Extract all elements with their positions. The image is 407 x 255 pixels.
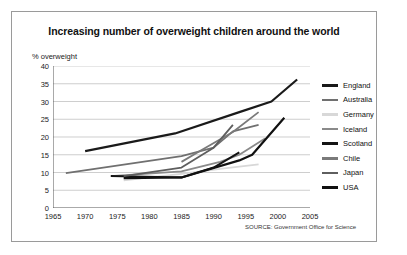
legend-swatch-icon: [322, 157, 338, 160]
y-tick-label: 5: [45, 186, 49, 195]
legend-swatch-icon: [322, 99, 338, 102]
chart-figure: Increasing number of overweight children…: [11, 11, 377, 242]
legend-swatch-icon: [322, 186, 338, 189]
legend-item-chile[interactable]: Chile: [322, 151, 386, 166]
x-tick-label: 2005: [302, 212, 319, 221]
legend-item-label: Japan: [343, 168, 363, 177]
source-note: SOURCE: Government Office for Science: [12, 224, 356, 230]
plot-area: 0510152025303540 19651970197519801985199…: [53, 66, 310, 208]
x-tick-label: 1965: [45, 212, 62, 221]
x-tick-label: 1985: [173, 212, 190, 221]
chart-legend: EnglandAustraliaGermanyIcelandScotlandCh…: [322, 78, 386, 195]
x-tick-label: 1995: [237, 212, 254, 221]
legend-item-label: Iceland: [343, 125, 367, 134]
legend-item-australia[interactable]: Australia: [322, 93, 386, 108]
legend-swatch-icon: [322, 84, 338, 87]
plot-svg: [53, 66, 310, 208]
legend-item-label: Chile: [343, 154, 360, 163]
legend-item-label: Australia: [343, 95, 372, 104]
legend-item-scotland[interactable]: Scotland: [322, 136, 386, 151]
series-lines: [66, 79, 297, 180]
y-tick-label: 10: [41, 168, 49, 177]
x-tick-label: 1970: [77, 212, 94, 221]
y-tick-label: 20: [41, 133, 49, 142]
y-tick-label: 15: [41, 150, 49, 159]
legend-swatch-icon: [322, 142, 338, 145]
legend-swatch-icon: [322, 113, 338, 116]
legend-item-label: Scotland: [343, 139, 372, 148]
legend-item-england[interactable]: England: [322, 78, 386, 93]
y-tick-label: 35: [41, 79, 49, 88]
legend-item-germany[interactable]: Germany: [322, 107, 386, 122]
chart-title: Increasing number of overweight children…: [12, 25, 376, 37]
y-tick-label: 30: [41, 97, 49, 106]
legend-item-japan[interactable]: Japan: [322, 166, 386, 181]
x-tick-label: 1990: [205, 212, 222, 221]
y-axis-label: % overweight: [32, 52, 77, 61]
x-tick-label: 1975: [109, 212, 126, 221]
legend-swatch-icon: [322, 172, 338, 175]
x-tick-label: 2000: [270, 212, 287, 221]
x-tick-label: 1980: [141, 212, 158, 221]
y-tick-label: 25: [41, 115, 49, 124]
legend-item-label: USA: [343, 183, 358, 192]
legend-item-label: England: [343, 81, 371, 90]
legend-swatch-icon: [322, 128, 338, 131]
legend-item-iceland[interactable]: Iceland: [322, 122, 386, 137]
legend-item-usa[interactable]: USA: [322, 180, 386, 195]
y-tick-label: 40: [41, 62, 49, 71]
legend-item-label: Germany: [343, 110, 374, 119]
